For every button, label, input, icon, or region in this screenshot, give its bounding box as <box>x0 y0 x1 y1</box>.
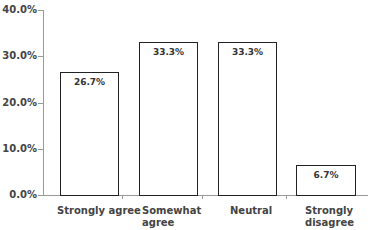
bar-value-label: 6.7% <box>297 170 355 180</box>
bar-value-label: 26.7% <box>61 77 118 87</box>
category-label-line: Strongly <box>305 205 354 217</box>
x-tick-mark <box>286 195 287 199</box>
category-label-line: agree <box>142 217 201 229</box>
y-tick-label: 30.0% <box>0 50 37 61</box>
bar-value-label: 33.3% <box>140 47 197 57</box>
y-tick-label: 10.0% <box>0 143 37 154</box>
x-tick-mark <box>122 195 123 199</box>
category-label-line: Strongly agree <box>57 205 141 217</box>
x-category-label: Strongly agree <box>57 205 141 217</box>
bar-neutral: 33.3% <box>218 42 277 196</box>
y-tick-label: 40.0% <box>0 4 37 15</box>
x-category-label: Strongly disagree <box>305 205 354 229</box>
category-label-line: disagree <box>305 217 354 229</box>
y-tick-mark <box>38 103 43 104</box>
x-category-label: Somewhat agree <box>142 205 201 229</box>
y-axis <box>43 10 44 195</box>
bar-somewhat-agree: 33.3% <box>139 42 198 196</box>
bar-chart: 40.0% 30.0% 20.0% 10.0% 0.0% 26.7% 33.3%… <box>0 0 376 230</box>
y-tick-mark <box>38 149 43 150</box>
category-label-line: Somewhat <box>142 205 201 217</box>
y-tick-mark <box>38 195 43 196</box>
bar-strongly-disagree: 6.7% <box>296 165 356 196</box>
x-category-label: Neutral <box>230 205 272 217</box>
bar-strongly-agree: 26.7% <box>60 72 119 196</box>
y-tick-label: 0.0% <box>0 189 37 200</box>
bar-value-label: 33.3% <box>219 47 276 57</box>
x-tick-mark <box>202 195 203 199</box>
category-label-line: Neutral <box>230 205 272 217</box>
y-tick-mark <box>38 10 43 11</box>
y-tick-mark <box>38 56 43 57</box>
y-tick-label: 20.0% <box>0 97 37 108</box>
